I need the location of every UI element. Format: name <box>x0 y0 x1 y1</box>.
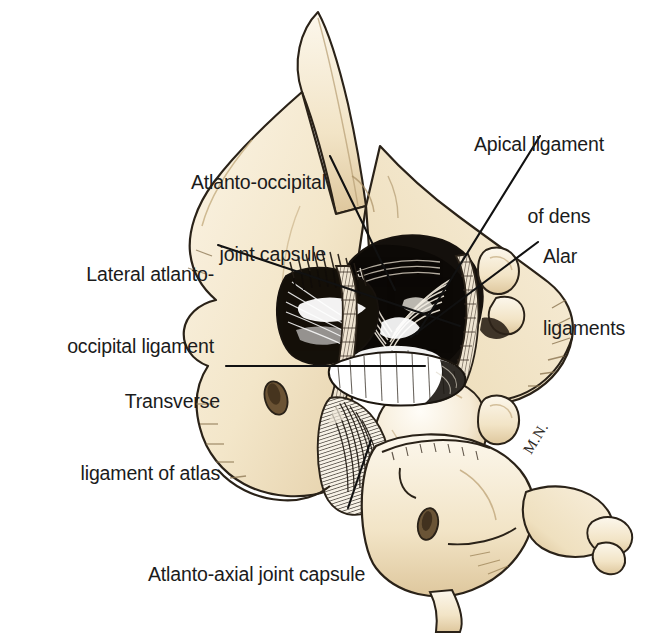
label-line: Lateral atlanto- <box>32 262 214 286</box>
label-transverse-ligament-of-atlas: Transverse ligament of atlas <box>52 341 220 533</box>
label-line: ligaments <box>543 316 647 340</box>
anatomical-figure: Atlanto-occipital joint capsule Lateral … <box>0 0 648 633</box>
label-line: Alar <box>543 244 647 268</box>
label-line: Transverse <box>52 389 220 413</box>
label-line: Apical ligament <box>474 132 644 156</box>
label-line: Atlanto-axial joint capsule <box>148 562 428 586</box>
label-line: Atlanto-occipital <box>104 170 326 194</box>
label-atlanto-axial-joint-capsule: Atlanto-axial joint capsule <box>148 514 428 633</box>
label-alar-ligaments: Alar ligaments <box>543 196 647 388</box>
label-line: ligament of atlas <box>52 461 220 485</box>
